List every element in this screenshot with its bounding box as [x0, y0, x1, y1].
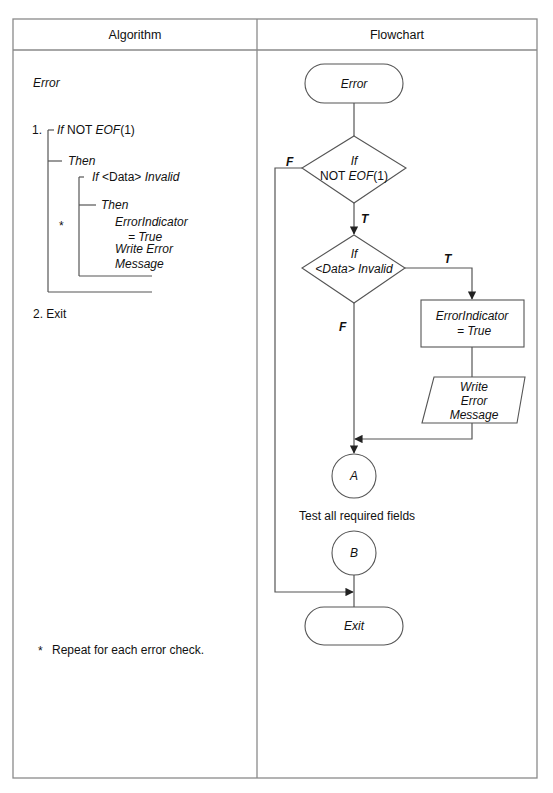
- step1-number: 1.: [32, 123, 42, 137]
- decision1-false-label: F: [286, 155, 294, 169]
- connector-decision2-true: [405, 268, 472, 299]
- algorithm-column: Error 1. If NOT EOF(1) Then If <Data> In…: [32, 76, 204, 658]
- step2-exit: 2. Exit: [33, 307, 67, 321]
- inner-data: <Data>: [102, 170, 141, 184]
- action-line-3: Write Error: [115, 242, 174, 256]
- header-flowchart: Flowchart: [370, 28, 425, 42]
- io-line2: Error: [461, 394, 489, 408]
- footnote-asterisk: *: [38, 644, 43, 658]
- inner-condition: If <Data> Invalid: [92, 170, 180, 184]
- connector-decision1-false: [275, 168, 353, 592]
- connector-a-label: A: [349, 469, 358, 483]
- process-line2: = True: [457, 324, 491, 338]
- decision2-false-label: F: [339, 320, 347, 334]
- connector-b-label: B: [350, 546, 358, 560]
- inner-if: If: [92, 170, 100, 184]
- end-terminal-label: Exit: [344, 619, 365, 633]
- then2-label: Then: [101, 198, 129, 212]
- diagram-canvas: Algorithm Flowchart Error 1. If NOT EOF(…: [0, 0, 553, 793]
- flowchart-column: Error If NOT EOF(1) F T If <Data> Invali…: [275, 64, 525, 645]
- step1-arg: (1): [120, 123, 135, 137]
- repeat-asterisk: *: [59, 219, 64, 233]
- decision1-line2: NOT EOF(1): [320, 169, 388, 183]
- decision1-true-label: T: [361, 212, 370, 226]
- connector-note: Test all required fields: [299, 509, 415, 523]
- decision2-line2: <Data> Invalid: [315, 262, 393, 276]
- start-terminal-label: Error: [341, 77, 369, 91]
- step1-if: If: [57, 123, 65, 137]
- decision1-not: NOT: [320, 169, 348, 183]
- step1-func: EOF: [95, 123, 120, 137]
- io-line3: Message: [450, 408, 499, 422]
- decision2-true-label: T: [444, 252, 453, 266]
- algorithm-title: Error: [33, 76, 61, 90]
- step2-text: 2. Exit: [33, 307, 67, 321]
- header-algorithm: Algorithm: [109, 28, 162, 42]
- footnote-text: Repeat for each error check.: [52, 643, 204, 657]
- action-line-1: ErrorIndicator: [115, 215, 189, 229]
- step1-not: NOT: [67, 123, 93, 137]
- action-line-4: Message: [115, 257, 164, 271]
- process-line1: ErrorIndicator: [436, 309, 510, 323]
- io-line1: Write: [460, 380, 488, 394]
- inner-invalid: Invalid: [145, 170, 180, 184]
- decision1-func: EOF: [349, 169, 374, 183]
- connector-io-to-merge: [355, 423, 472, 439]
- decision1-arg: (1): [373, 169, 388, 183]
- then1-label: Then: [68, 154, 96, 168]
- step1-condition: If NOT EOF(1): [57, 123, 135, 137]
